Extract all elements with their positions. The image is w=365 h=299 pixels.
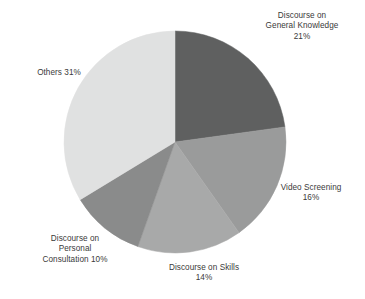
slice-label-discourse-on-personal-consultation: Discourse on Personal Consultation 10%	[18, 234, 132, 265]
slice-label-video-screening: Video Screening 16%	[262, 183, 360, 204]
slice-label-others: Others 31%	[12, 68, 106, 78]
slice-label-discourse-on-skills: Discourse on Skills 14%	[146, 263, 262, 284]
pie-slice-group	[64, 31, 286, 253]
pie-slice	[175, 31, 285, 142]
pie-chart: Discourse on General Knowledge 21% Video…	[0, 0, 365, 299]
slice-label-discourse-on-general-knowledge: Discourse on General Knowledge 21%	[246, 11, 358, 42]
